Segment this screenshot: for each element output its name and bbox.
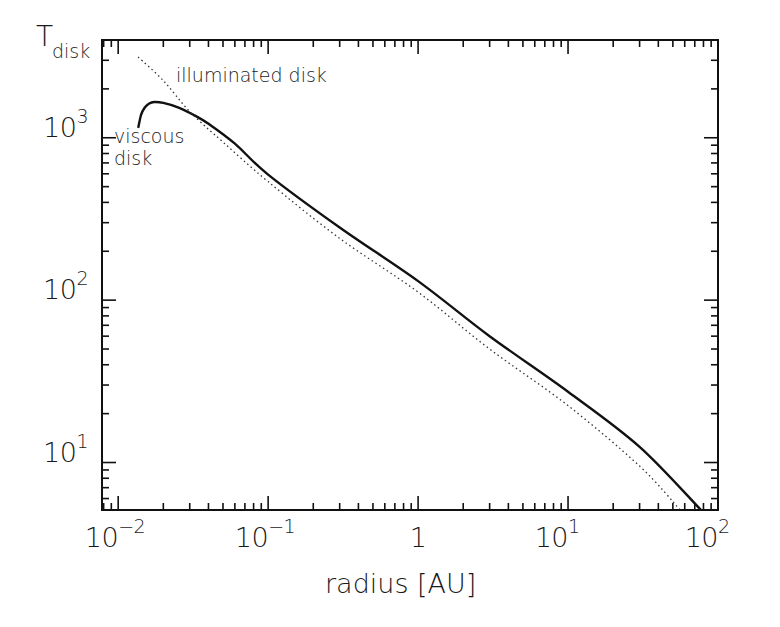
- annotation-illuminated-disk: illuminated disk: [176, 64, 327, 86]
- series-illuminated-disk: [138, 57, 680, 510]
- x-tick-label: 102: [685, 522, 730, 553]
- y-axis-title-subscript: disk: [52, 40, 90, 62]
- annotation-viscous-line1: viscous: [114, 125, 184, 147]
- x-tick-label: 10−2: [85, 522, 145, 553]
- y-tick-label: 103: [43, 112, 88, 143]
- annotation-viscous-line2: disk: [114, 147, 152, 169]
- series-viscous-disk: [138, 102, 701, 510]
- y-tick-label: 102: [43, 274, 88, 305]
- x-tick-label: 101: [535, 522, 580, 553]
- series-layer: [138, 57, 701, 510]
- y-axis-title: T: [36, 20, 53, 53]
- x-axis-title: radius [AU]: [325, 568, 476, 599]
- x-tick-label: 10−1: [235, 522, 295, 553]
- y-axis-title-main: T: [36, 20, 53, 53]
- x-tick-label: 1: [410, 522, 427, 553]
- y-tick-label: 101: [43, 437, 88, 468]
